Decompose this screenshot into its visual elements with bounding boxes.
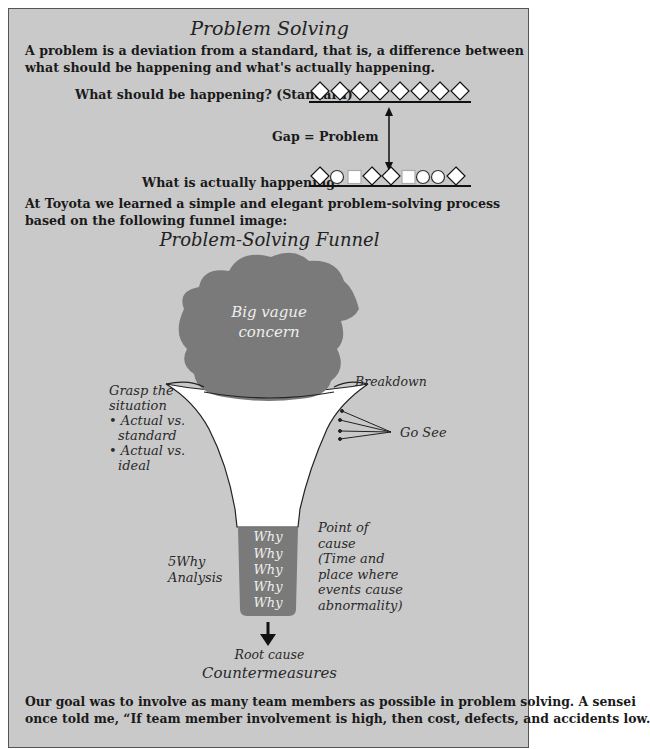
point-of-cause-line: abnormality) <box>318 598 403 614</box>
why-item: Why <box>238 562 298 579</box>
closing-paragraph: Our goal was to involve as many team mem… <box>25 693 530 727</box>
go-see-label: Go See <box>400 425 447 441</box>
grasp-line1: Grasp the <box>109 383 185 398</box>
cloud-label: Big vague concern <box>209 302 329 342</box>
arrow-down-icon <box>260 634 276 646</box>
closing-line1: Our goal was to involve as many team mem… <box>25 693 530 710</box>
grasp-bullet-2: • Actual vs. <box>109 443 185 458</box>
point-of-cause-line: Point of <box>318 520 403 536</box>
funnel-body <box>166 384 368 527</box>
grasp-line2: situation <box>109 398 185 413</box>
why-item: Why <box>238 546 298 563</box>
five-why-label: 5Why Analysis <box>168 554 223 586</box>
cloud-label-line1: Big vague <box>209 302 329 322</box>
why-item: Why <box>238 579 298 596</box>
grasp-bullet-1-cont: standard <box>109 428 185 443</box>
grasp-bullet-2-cont: ideal <box>109 458 185 473</box>
point-of-cause-line: place where <box>318 567 403 583</box>
five-why-line2: Analysis <box>168 570 223 586</box>
root-cause-label: Root cause <box>9 647 530 663</box>
point-of-cause-line: cause <box>318 536 403 552</box>
funnel-diagram <box>9 9 530 749</box>
why-list: Why Why Why Why Why <box>238 529 298 612</box>
why-item: Why <box>238 529 298 546</box>
cloud-label-line2: concern <box>209 322 329 342</box>
breakdown-label: Breakdown <box>355 374 427 390</box>
grasp-bullet-1: • Actual vs. <box>109 413 185 428</box>
grasp-situation-label: Grasp the situation • Actual vs. standar… <box>109 383 185 473</box>
closing-line2: once told me, “If team member involvemen… <box>25 710 530 727</box>
point-of-cause-line: events cause <box>318 582 403 598</box>
point-of-cause-label: Point of cause (Time and place where eve… <box>318 520 403 613</box>
five-why-line1: 5Why <box>168 554 223 570</box>
countermeasures-label: Countermeasures <box>9 665 530 681</box>
go-see-arrows <box>339 410 392 441</box>
why-item: Why <box>238 595 298 612</box>
content-frame: Problem Solving A problem is a deviation… <box>8 8 529 748</box>
point-of-cause-line: (Time and <box>318 551 403 567</box>
